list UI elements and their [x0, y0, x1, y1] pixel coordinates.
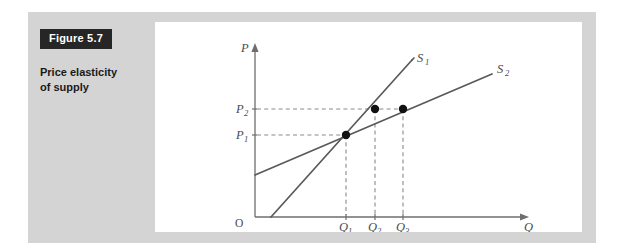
x-tick-label-q1-base: Q [339, 220, 348, 232]
figure-sidebar: Figure 5.7 Price elasticity of supply [28, 12, 155, 243]
data-point-equilibrium-s2 [399, 105, 407, 113]
x-tick-label-q3: Q 3 [396, 220, 409, 232]
y-tick-label-p1: P 1 [235, 128, 248, 144]
figure-caption: Price elasticity of supply [40, 65, 152, 95]
y-tick-label-p2-base: P [235, 102, 244, 116]
figure-caption-line-2: of supply [40, 80, 152, 95]
figure-number-badge: Figure 5.7 [40, 29, 112, 49]
x-tick-label-q1-sub: 1 [348, 226, 352, 232]
curve-label-s1: S 1 [417, 51, 429, 67]
figure-root: Figure 5.7 Price elasticity of supply P … [0, 0, 622, 251]
y-tick-label-p1-sub: 1 [244, 134, 248, 144]
data-point-equilibrium-s1 [371, 105, 379, 113]
data-point-equilibrium-initial [342, 131, 350, 139]
x-tick-label-q1: Q 1 [339, 220, 352, 232]
curve-label-s1-sub: 1 [425, 57, 429, 67]
x-tick-label-q3-base: Q [396, 220, 405, 232]
curve-label-s2-sub: 2 [505, 68, 510, 78]
supply-curve-s2 [255, 74, 492, 175]
curve-label-s1-base: S [417, 51, 424, 65]
figure-panel: Figure 5.7 Price elasticity of supply P … [28, 12, 596, 243]
x-tick-label-q3-sub: 3 [404, 226, 409, 232]
curve-label-s2: S 2 [497, 62, 510, 78]
y-tick-label-p2-sub: 2 [244, 108, 249, 118]
y-tick-label-p2: P 2 [235, 102, 249, 118]
curve-label-s2-base: S [497, 62, 504, 76]
plot-panel: P Q O [155, 22, 582, 232]
figure-caption-line-1: Price elasticity [40, 65, 152, 80]
y-tick-label-p1-base: P [235, 128, 244, 142]
supply-curve-s1 [271, 60, 412, 217]
x-tick-label-q2: Q 2 [368, 220, 382, 232]
supply-curve-s1-tail [412, 58, 414, 60]
x-axis-title: Q [524, 220, 533, 232]
origin-label: O [235, 217, 243, 229]
x-tick-label-q2-sub: 2 [377, 226, 382, 232]
supply-elasticity-chart: P Q O [155, 22, 582, 232]
y-axis-arrowhead [251, 43, 258, 52]
y-axis-title: P [240, 41, 249, 55]
x-tick-label-q2-base: Q [368, 220, 377, 232]
